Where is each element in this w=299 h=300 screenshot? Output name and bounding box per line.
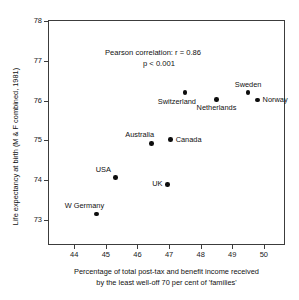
y-tick-label: 75 <box>34 137 42 145</box>
y-tick <box>44 21 49 22</box>
data-point-label: W Germany <box>65 202 104 209</box>
scatter-plot-figure: 737475767778 44454647484950 W GermanyUSA… <box>0 0 299 300</box>
x-tick <box>201 244 202 249</box>
y-tick-label: 77 <box>34 57 42 65</box>
data-point <box>183 90 188 95</box>
y-tick <box>44 180 49 181</box>
data-point-label: Switzerland <box>158 98 196 105</box>
x-tick-label: 47 <box>165 251 173 259</box>
data-point <box>165 182 170 187</box>
x-tick-label: 50 <box>260 251 268 259</box>
data-point <box>214 97 219 102</box>
x-axis-title-line1: Percentage of total post-tax and benefit… <box>48 266 285 277</box>
x-axis-title: Percentage of total post-tax and benefit… <box>48 266 285 288</box>
x-tick <box>137 244 138 249</box>
x-tick <box>232 244 233 249</box>
correlation-annotation: Pearson correlation: r = 0.86 p < 0.001 <box>105 47 201 69</box>
x-tick-label: 45 <box>102 251 110 259</box>
x-tick-label: 44 <box>70 251 78 259</box>
x-tick <box>106 244 107 249</box>
data-point-label: Australia <box>125 131 154 138</box>
data-point <box>113 175 118 180</box>
x-tick <box>264 244 265 249</box>
data-point-label: Sweden <box>235 80 262 87</box>
y-axis-title: Life expectancy at birth (M & F combined… <box>9 34 23 259</box>
data-point <box>246 90 251 95</box>
y-tick <box>44 61 49 62</box>
data-point <box>94 212 99 217</box>
y-tick-label: 78 <box>34 17 42 25</box>
y-tick <box>44 220 49 221</box>
y-tick <box>44 140 49 141</box>
data-point-label: UK <box>152 181 162 188</box>
correlation-p-text: p < 0.001 <box>105 58 201 69</box>
data-point-label: USA <box>96 165 111 172</box>
data-point <box>255 98 260 103</box>
x-tick-label: 46 <box>133 251 141 259</box>
y-tick-label: 74 <box>34 177 42 185</box>
data-point <box>168 137 173 142</box>
data-point-label: Netherlands <box>197 104 237 111</box>
x-tick-label: 48 <box>197 251 205 259</box>
x-tick <box>169 244 170 249</box>
plot-area: 737475767778 44454647484950 W GermanyUSA… <box>48 20 285 245</box>
data-point-label: Norway <box>263 96 288 103</box>
data-point-label: Canada <box>176 136 202 143</box>
x-tick <box>74 244 75 249</box>
data-point <box>149 141 154 146</box>
x-tick-label: 49 <box>228 251 236 259</box>
y-tick-label: 76 <box>34 97 42 105</box>
correlation-r-text: Pearson correlation: r = 0.86 <box>105 48 201 57</box>
y-tick <box>44 101 49 102</box>
x-axis-title-line2: by the least well-off 70 per cent of 'fa… <box>48 277 285 288</box>
y-tick-label: 73 <box>34 216 42 224</box>
